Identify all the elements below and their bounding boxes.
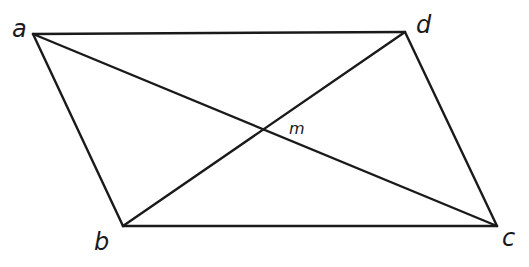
diagonal-bd [123,32,405,226]
vertex-label-a: a [12,15,27,43]
vertex-label-b: b [94,228,109,256]
diagonal-ac [33,34,497,226]
edge-dc [405,32,497,226]
intersection-label-m: m [289,119,305,138]
parallelogram-diagram: a d m b c [0,0,529,267]
vertex-label-d: d [416,11,432,39]
edge-ad [33,32,405,34]
edge-ba [33,34,123,226]
vertex-label-c: c [502,224,515,252]
